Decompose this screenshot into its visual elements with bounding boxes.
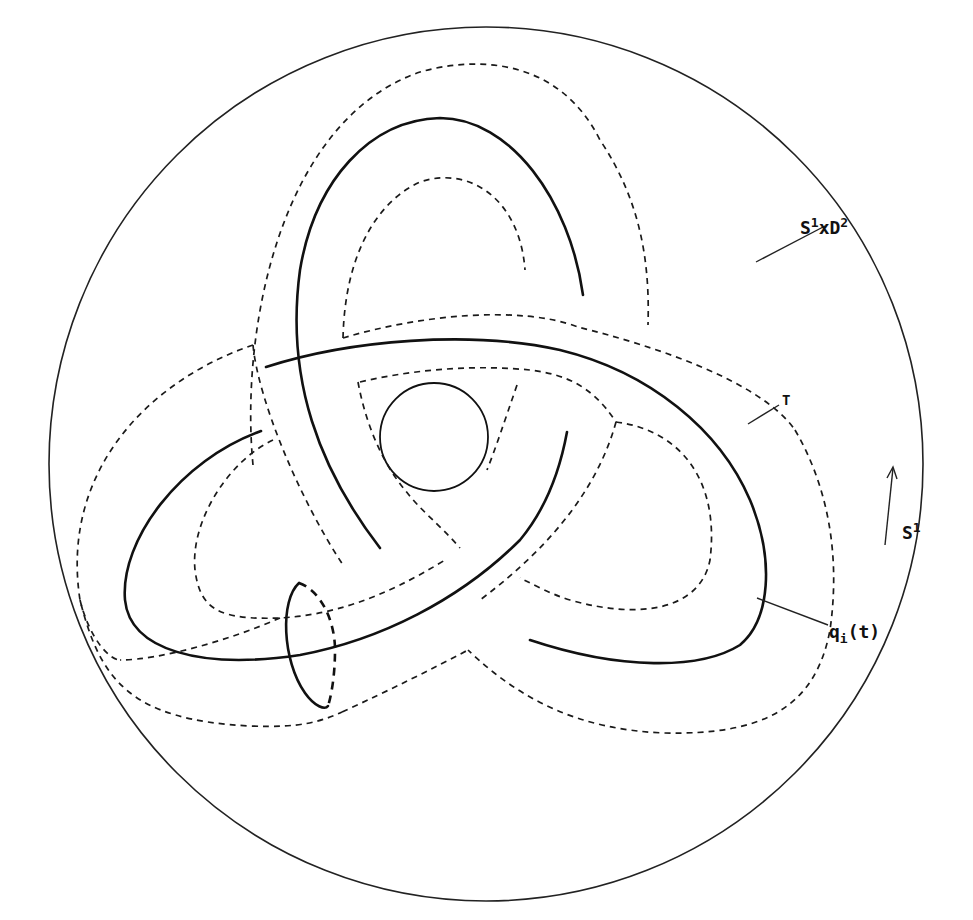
- label-torus: T: [782, 392, 790, 408]
- s1-direction-arrow-shaft: [885, 468, 893, 545]
- inner-hole-circle: [380, 383, 488, 491]
- tube-boundary-bottom-cross: [120, 618, 280, 660]
- knot-core-top-lobe: [297, 118, 583, 548]
- outer-solid-torus-circle: [49, 27, 923, 901]
- leader-torus: [748, 405, 779, 424]
- tube-boundary-left-inner: [195, 440, 445, 618]
- tube-boundary-bottom-left: [342, 650, 468, 712]
- label-solid-torus: S1xD2: [800, 215, 848, 238]
- tube-boundary-left-diagonal: [253, 345, 343, 565]
- tube-boundary-hole-right: [487, 385, 517, 470]
- tube-boundary-right-diagonal: [480, 422, 616, 600]
- tube-boundary-center-upper: [360, 368, 616, 422]
- tube-boundary-left-outer: [77, 345, 342, 726]
- tube-boundary-right-outer: [468, 430, 834, 733]
- knot-core-left-lobe: [125, 431, 567, 660]
- label-curve-qi: qi(t): [829, 621, 880, 646]
- meridian-circle-back: [299, 583, 335, 706]
- tube-boundary-center-diagonal: [358, 382, 460, 548]
- tube-band-lower: [80, 600, 120, 660]
- leader-curve: [757, 598, 828, 625]
- tube-band-upper: [343, 315, 795, 430]
- knot-diagram: [0, 0, 973, 920]
- label-circle-direction: S1: [902, 520, 921, 543]
- tube-boundary-top-outer: [251, 64, 649, 465]
- tube-boundary-right-inner: [520, 422, 712, 610]
